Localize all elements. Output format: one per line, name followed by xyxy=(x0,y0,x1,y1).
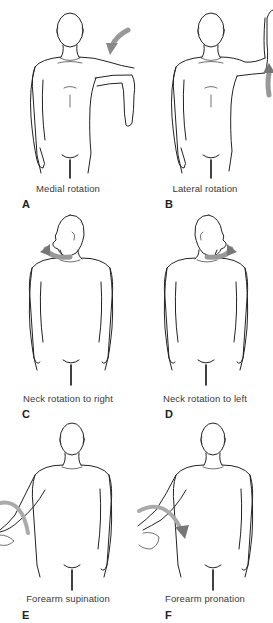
panel-b-lateral-rotation: Lateral rotation B xyxy=(137,0,273,210)
caption-medial-rotation: Medial rotation xyxy=(0,183,136,194)
figure-lateral-rotation xyxy=(137,0,273,180)
panel-a-medial-rotation: Medial rotation A xyxy=(0,0,136,210)
panel-letter-e: E xyxy=(22,609,29,621)
caption-neck-rotation-right: Neck rotation to right xyxy=(0,393,136,404)
panel-e-forearm-supination: Forearm supination E xyxy=(0,415,136,623)
caption-neck-rotation-left: Neck rotation to left xyxy=(137,393,273,404)
figure-medial-rotation xyxy=(0,0,136,180)
panel-d-neck-rotation-left: Neck rotation to left D xyxy=(137,210,273,415)
panel-letter-f: F xyxy=(165,609,172,621)
panel-letter-b: B xyxy=(165,198,173,210)
panel-f-forearm-pronation: Forearm pronation F xyxy=(137,415,273,623)
panel-letter-a: A xyxy=(22,198,30,210)
panel-c-neck-rotation-right: Neck rotation to right C xyxy=(0,210,136,415)
caption-forearm-pronation: Forearm pronation xyxy=(137,593,273,604)
caption-forearm-supination: Forearm supination xyxy=(0,593,136,604)
figure-forearm-pronation xyxy=(137,415,273,590)
figure-neck-rotation-left xyxy=(137,210,273,385)
caption-lateral-rotation: Lateral rotation xyxy=(137,183,273,194)
figure-neck-rotation-right xyxy=(0,210,136,385)
figure-forearm-supination xyxy=(0,415,136,590)
